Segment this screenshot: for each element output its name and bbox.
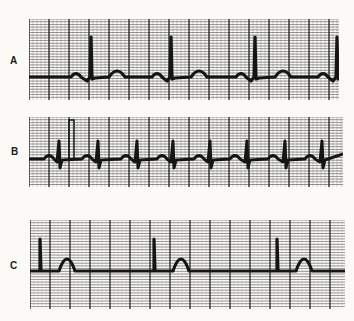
ecg-strip-b bbox=[29, 117, 343, 187]
strip-b-label: B bbox=[11, 146, 18, 157]
ecg-grid bbox=[30, 220, 345, 309]
ecg-grid bbox=[29, 117, 343, 187]
ecg-strip-c bbox=[30, 220, 345, 309]
strip-a-label: A bbox=[10, 55, 17, 66]
ecg-grid bbox=[29, 19, 339, 100]
strip-c-label: C bbox=[10, 260, 17, 271]
ecg-strip-a bbox=[29, 19, 339, 100]
